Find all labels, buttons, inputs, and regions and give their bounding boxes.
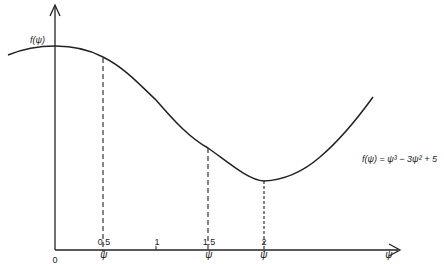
- x-tick-label-1: 1: [154, 238, 159, 247]
- equation-label: f(ψ) = ψ³ − 3ψ² + 5: [362, 155, 437, 164]
- x-tick-label-0: 0: [52, 256, 57, 264]
- x-tick-label-1.5: 1.5: [203, 238, 216, 247]
- function-curve: [8, 46, 373, 181]
- psi-sub-label-1.5: ψ: [205, 250, 212, 260]
- psi-sub-label-2: ψ: [260, 250, 267, 260]
- y-axis-label: f(ψ): [30, 36, 45, 45]
- x-tick-label-2: 2: [261, 238, 266, 247]
- psi-sub-label-0.5: ψ: [100, 250, 107, 260]
- function-plot: [0, 0, 444, 264]
- x-tick-label-0.5: 0.5: [98, 238, 111, 247]
- x-axis-label: ψ: [385, 250, 392, 260]
